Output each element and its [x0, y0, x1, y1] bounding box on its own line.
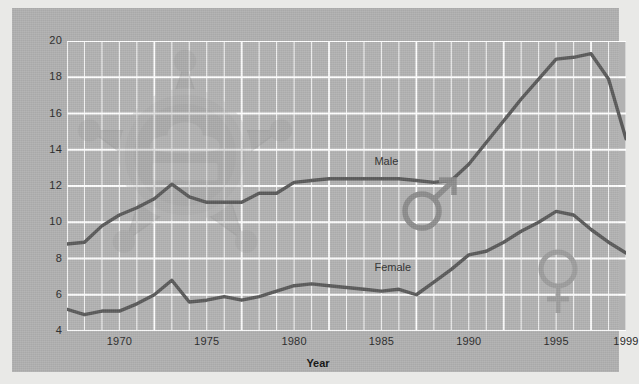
y-axis-tick-label: 12: [32, 179, 62, 191]
x-axis: 1970197519801985199019951999: [67, 335, 626, 355]
y-axis-tick-label: 18: [32, 70, 62, 82]
y-axis-tick-label: 6: [32, 288, 62, 300]
y-axis-tick-label: 10: [32, 215, 62, 227]
male-gender-symbol: [405, 180, 454, 228]
y-axis: 468101214161820: [28, 41, 62, 331]
plot-area: Male Female: [67, 41, 626, 331]
x-axis-tick-label: 1990: [456, 335, 481, 347]
x-axis-tick-label: 1970: [107, 335, 132, 347]
x-axis-tick-label: 1980: [281, 335, 306, 347]
y-axis-tick-label: 8: [32, 252, 62, 264]
x-axis-tick-label: 1975: [194, 335, 219, 347]
female-series-label: Female: [374, 261, 411, 273]
male-series-label: Male: [374, 155, 398, 167]
y-axis-tick-label: 20: [32, 34, 62, 46]
y-axis-tick-label: 4: [32, 324, 62, 336]
x-axis-tick-label: 1999: [613, 335, 638, 347]
y-axis-tick-label: 14: [32, 143, 62, 155]
female-gender-symbol: [541, 252, 575, 313]
x-axis-title: Year: [306, 357, 329, 369]
gender-symbol-overlays: [67, 41, 626, 331]
chart-panel: 468101214161820: [12, 8, 619, 372]
x-axis-tick-label: 1985: [369, 335, 394, 347]
y-axis-tick-label: 16: [32, 107, 62, 119]
x-axis-tick-label: 1995: [543, 335, 568, 347]
